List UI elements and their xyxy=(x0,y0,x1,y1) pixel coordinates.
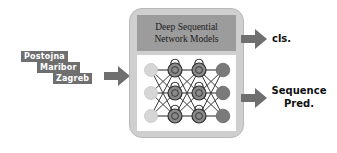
input-token-maribor: Maribor xyxy=(37,62,80,73)
recurrent-network-graph xyxy=(137,55,236,131)
network-layer-hidden2-nodes xyxy=(192,63,206,123)
network-area xyxy=(137,55,236,131)
sequence-pred-output-label: Sequence Pred. xyxy=(268,84,330,110)
network-layer-input-nodes xyxy=(145,64,158,123)
sequence-pred-line-1: Sequence xyxy=(268,84,330,97)
model-title-line-2: Network Models xyxy=(154,33,218,45)
sequence-pred-line-2: Pred. xyxy=(268,97,330,110)
model-panel-header-text: Deep Sequential Network Models xyxy=(137,15,236,51)
diagram-canvas: Postojna Maribor Zagreb Deep Sequential … xyxy=(0,0,337,153)
input-arrow xyxy=(104,65,131,87)
model-panel-header: Deep Sequential Network Models xyxy=(137,15,236,51)
input-token-postojna: Postojna xyxy=(21,51,68,62)
cls-output-label: cls. xyxy=(272,32,291,45)
sequence-output-arrow xyxy=(241,87,268,109)
model-title-line-1: Deep Sequential xyxy=(155,21,218,33)
cls-output-arrow xyxy=(241,28,268,50)
network-layer-hidden1-nodes xyxy=(168,63,182,123)
network-layer-output-nodes xyxy=(216,63,230,123)
input-token-zagreb: Zagreb xyxy=(53,73,92,84)
